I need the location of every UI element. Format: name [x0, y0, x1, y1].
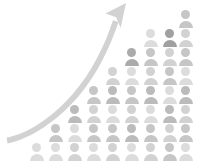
person-head-icon [89, 124, 98, 133]
person-body-icon [163, 78, 177, 85]
person-icon [178, 48, 193, 65]
person-head-icon [108, 124, 117, 133]
person-head-icon [181, 29, 190, 38]
person-icon [124, 48, 139, 65]
person-icon [86, 143, 101, 160]
person-body-icon [179, 59, 193, 66]
person-icon [124, 86, 139, 103]
person-icon [29, 143, 44, 160]
person-body-icon [144, 154, 158, 161]
person-body-icon [179, 135, 193, 142]
person-head-icon [70, 124, 79, 133]
person-head-icon [89, 143, 98, 152]
person-head-icon [146, 105, 155, 114]
person-body-icon [144, 135, 158, 142]
person-head-icon [108, 105, 117, 114]
person-body-icon [106, 97, 120, 104]
person-icon [124, 143, 139, 160]
person-icon [178, 10, 193, 27]
person-body-icon [179, 116, 193, 123]
person-head-icon [108, 67, 117, 76]
person-head-icon [127, 48, 136, 57]
person-body-icon [144, 78, 158, 85]
person-icon [105, 105, 120, 122]
person-body-icon [87, 154, 101, 161]
person-body-icon [163, 97, 177, 104]
person-head-icon [181, 124, 190, 133]
person-body-icon [163, 135, 177, 142]
person-icon [143, 143, 158, 160]
person-icon [86, 105, 101, 122]
person-body-icon [144, 59, 158, 66]
person-body-icon [179, 97, 193, 104]
person-head-icon [165, 143, 174, 152]
person-icon [162, 124, 177, 141]
person-head-icon [127, 67, 136, 76]
person-head-icon [108, 143, 117, 152]
person-head-icon [146, 48, 155, 57]
person-head-icon [108, 86, 117, 95]
person-body-icon [125, 154, 139, 161]
person-icon [67, 105, 82, 122]
person-body-icon [106, 135, 120, 142]
person-icon [48, 143, 63, 160]
person-body-icon [68, 135, 82, 142]
person-body-icon [106, 78, 120, 85]
person-head-icon [32, 143, 41, 152]
person-icon [178, 143, 193, 160]
person-body-icon [87, 135, 101, 142]
person-head-icon [181, 48, 190, 57]
person-body-icon [179, 40, 193, 47]
person-head-icon [165, 29, 174, 38]
person-icon [48, 124, 63, 141]
person-head-icon [51, 143, 60, 152]
person-icon [162, 143, 177, 160]
person-icon [105, 124, 120, 141]
person-icon [178, 105, 193, 122]
person-body-icon [163, 59, 177, 66]
person-body-icon [179, 21, 193, 28]
person-icon [105, 67, 120, 84]
person-icon [162, 105, 177, 122]
person-icon [178, 124, 193, 141]
person-head-icon [127, 86, 136, 95]
person-body-icon [30, 154, 44, 161]
person-icon [86, 86, 101, 103]
person-body-icon [49, 154, 63, 161]
person-body-icon [125, 59, 139, 66]
person-head-icon [181, 86, 190, 95]
person-head-icon [70, 105, 79, 114]
person-head-icon [146, 29, 155, 38]
person-body-icon [144, 40, 158, 47]
person-icon [178, 29, 193, 46]
pictogram-canvas [0, 0, 197, 167]
person-body-icon [144, 116, 158, 123]
person-icon [124, 67, 139, 84]
person-head-icon [146, 124, 155, 133]
person-body-icon [49, 135, 63, 142]
person-icon [162, 86, 177, 103]
person-head-icon [89, 105, 98, 114]
person-head-icon [181, 10, 190, 19]
person-head-icon [165, 48, 174, 57]
person-icon [105, 143, 120, 160]
person-head-icon [146, 86, 155, 95]
person-body-icon [179, 154, 193, 161]
person-body-icon [163, 40, 177, 47]
person-icon [178, 86, 193, 103]
person-body-icon [125, 135, 139, 142]
person-icon [143, 48, 158, 65]
person-head-icon [127, 124, 136, 133]
person-head-icon [165, 86, 174, 95]
people-grid [0, 0, 197, 167]
person-body-icon [125, 97, 139, 104]
person-body-icon [163, 154, 177, 161]
person-head-icon [70, 143, 79, 152]
person-head-icon [89, 86, 98, 95]
person-head-icon [165, 124, 174, 133]
person-head-icon [181, 143, 190, 152]
person-head-icon [181, 67, 190, 76]
person-icon [124, 124, 139, 141]
person-body-icon [106, 116, 120, 123]
person-icon [162, 29, 177, 46]
